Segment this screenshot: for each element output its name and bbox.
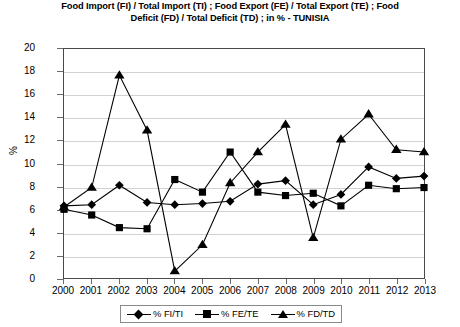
legend-label: % FD/TD bbox=[297, 309, 336, 318]
y-axis-tick-label: 16 bbox=[5, 89, 35, 99]
data-point-square bbox=[116, 224, 123, 231]
x-axis-tick-label: 2013 bbox=[405, 285, 445, 297]
x-axis-tick-mark bbox=[341, 279, 342, 284]
x-axis-tick-mark bbox=[63, 279, 64, 284]
data-point-square bbox=[227, 148, 234, 155]
data-point-square bbox=[171, 176, 178, 183]
chart-title: Food Import (FI) / Total Import (TI) ; F… bbox=[52, 1, 408, 24]
series-line-square bbox=[64, 152, 424, 229]
data-point-triangle bbox=[197, 240, 207, 248]
data-point-diamond bbox=[392, 174, 401, 183]
y-axis-tick-label: 14 bbox=[5, 112, 35, 122]
data-point-triangle bbox=[114, 70, 124, 78]
data-point-square bbox=[254, 189, 261, 196]
chart-container: Food Import (FI) / Total Import (TI) ; F… bbox=[0, 0, 460, 327]
data-point-square bbox=[88, 211, 95, 218]
legend-item-square[interactable]: % FE/TE bbox=[195, 308, 259, 320]
diamond-marker-icon bbox=[127, 308, 151, 320]
data-point-diamond bbox=[198, 199, 207, 208]
x-axis-tick-mark bbox=[202, 279, 203, 284]
x-axis-tick-mark bbox=[230, 279, 231, 284]
data-point-square bbox=[420, 184, 427, 191]
y-axis-tick-label: 8 bbox=[5, 182, 35, 192]
data-point-diamond bbox=[226, 197, 235, 206]
x-axis-tick-mark bbox=[397, 279, 398, 284]
data-point-square bbox=[282, 192, 289, 199]
data-point-square bbox=[199, 189, 206, 196]
legend-item-diamond[interactable]: % FI/TI bbox=[127, 308, 183, 320]
y-axis-tick-label: 10 bbox=[5, 159, 35, 169]
y-axis-title: % bbox=[8, 146, 19, 155]
data-point-diamond bbox=[143, 198, 152, 207]
plot-area bbox=[63, 48, 425, 279]
data-point-diamond bbox=[87, 200, 96, 209]
legend-item-triangle[interactable]: % FD/TD bbox=[271, 308, 336, 320]
data-point-triangle bbox=[87, 182, 97, 190]
x-axis-tick-mark bbox=[174, 279, 175, 284]
y-axis-tick-label: 2 bbox=[5, 251, 35, 261]
data-point-diamond bbox=[420, 172, 429, 181]
data-point-square bbox=[393, 185, 400, 192]
square-marker-icon bbox=[195, 308, 219, 320]
x-axis-tick-mark bbox=[258, 279, 259, 284]
triangle-marker-icon bbox=[271, 308, 295, 320]
data-series-layer bbox=[64, 49, 424, 278]
legend-label: % FE/TE bbox=[221, 309, 259, 318]
data-point-diamond bbox=[170, 200, 179, 209]
legend-label: % FI/TI bbox=[153, 309, 183, 318]
data-point-square bbox=[310, 190, 317, 197]
series-line-triangle bbox=[64, 75, 424, 271]
data-point-triangle bbox=[308, 233, 318, 241]
data-point-triangle bbox=[363, 109, 373, 117]
x-axis-tick-mark bbox=[369, 279, 370, 284]
y-axis-tick-label: 0 bbox=[5, 274, 35, 284]
data-point-square bbox=[337, 202, 344, 209]
y-axis-tick-label: 18 bbox=[5, 66, 35, 76]
y-axis-tick-label: 4 bbox=[5, 228, 35, 238]
y-axis-tick-label: 6 bbox=[5, 205, 35, 215]
data-point-square bbox=[365, 182, 372, 189]
chart-legend: % FI/TI% FE/TE% FD/TD bbox=[120, 305, 342, 323]
x-axis-tick-mark bbox=[314, 279, 315, 284]
x-axis-tick-mark bbox=[119, 279, 120, 284]
x-axis-tick-mark bbox=[425, 279, 426, 284]
data-point-triangle bbox=[280, 119, 290, 127]
y-axis-tick-label: 12 bbox=[5, 135, 35, 145]
y-axis-tick-label: 20 bbox=[5, 43, 35, 53]
x-axis-tick-mark bbox=[147, 279, 148, 284]
data-point-square bbox=[143, 225, 150, 232]
data-point-triangle bbox=[419, 147, 429, 155]
x-axis-tick-mark bbox=[286, 279, 287, 284]
x-axis-tick-mark bbox=[91, 279, 92, 284]
data-point-diamond bbox=[115, 181, 124, 190]
data-point-triangle bbox=[142, 125, 152, 133]
